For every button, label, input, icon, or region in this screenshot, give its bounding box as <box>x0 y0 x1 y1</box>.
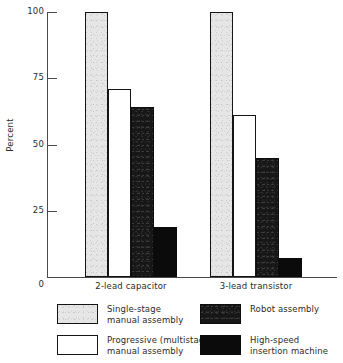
legend-swatch-solid-black-icon <box>200 335 241 355</box>
bar-3lead-progressive-manual <box>233 115 256 277</box>
legend-item-high-speed-insertion-machine: High-speed insertion machine <box>200 335 328 356</box>
legend-label-progressive-multistage-manual-assembly: Progressive (multistage) manual assembly <box>107 335 213 356</box>
bars-layer <box>0 0 343 277</box>
legend-label-line2: insertion machine <box>250 346 328 357</box>
bar-chart-figure: Percent 100 75 50 25 0 2-lead capacitor … <box>0 0 343 363</box>
bar-2lead-single-stage-manual <box>85 12 108 277</box>
bar-3lead-robot-assembly <box>256 158 279 277</box>
legend-label-high-speed-insertion-machine: High-speed insertion machine <box>250 335 328 356</box>
plot-area: Percent 100 75 50 25 0 2-lead capacitor … <box>0 0 343 290</box>
y-tick-label-0: 0 <box>38 280 44 289</box>
bar-2lead-high-speed-insertion <box>154 227 177 277</box>
bar-3lead-high-speed-insertion <box>279 258 302 277</box>
legend-item-robot-assembly: Robot assembly <box>200 304 319 324</box>
legend-label-line2: manual assembly <box>107 315 183 326</box>
x-tick-label-2-lead-capacitor: 2-lead capacitor <box>71 281 191 291</box>
legend-label-line2: manual assembly <box>107 346 213 357</box>
legend-label-single-stage-manual-assembly: Single-stage manual assembly <box>107 304 183 325</box>
legend-label-line1: Single-stage <box>107 304 161 314</box>
legend-label-line1: Robot assembly <box>250 304 319 314</box>
legend-label-line1: Progressive (multistage) <box>107 335 213 345</box>
bar-2lead-progressive-manual <box>108 89 131 277</box>
bar-3lead-single-stage-manual <box>210 12 233 277</box>
legend-swatch-light-speckle-icon <box>57 304 98 324</box>
x-axis-line <box>47 277 337 278</box>
legend-item-single-stage-manual-assembly: Single-stage manual assembly <box>57 304 183 325</box>
legend-item-progressive-multistage-manual-assembly: Progressive (multistage) manual assembly <box>57 335 213 356</box>
legend-swatch-dark-speckle-icon <box>200 304 241 324</box>
legend-label-robot-assembly: Robot assembly <box>250 304 319 315</box>
legend-swatch-white-icon <box>57 335 98 355</box>
chart-legend: Single-stage manual assembly Robot assem… <box>0 300 343 363</box>
x-tick-label-3-lead-transistor: 3-lead transistor <box>196 281 316 291</box>
legend-label-line1: High-speed <box>250 335 299 345</box>
bar-2lead-robot-assembly <box>131 107 154 277</box>
